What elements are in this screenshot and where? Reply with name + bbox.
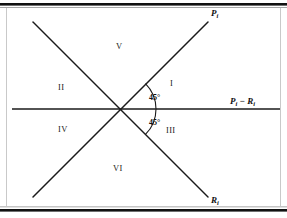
- region-label-VI: VI: [113, 164, 123, 173]
- angle-label-lower: 45°: [149, 119, 160, 127]
- diagram-canvas: [0, 0, 287, 218]
- axis-symbol-p2: P: [230, 96, 236, 106]
- axis-symbol-p: P: [211, 8, 217, 18]
- frame-bottom-rule: [0, 209, 287, 212]
- region-label-III: III: [166, 126, 175, 135]
- frame-bottom-hairline: [0, 207, 287, 208]
- region-label-II: II: [58, 83, 64, 92]
- axis-operator-minus: −: [237, 96, 247, 106]
- axis-subscript-r: i: [217, 199, 219, 206]
- axis-subscript-p: i: [217, 12, 219, 19]
- figure-container: I II III IV V VI 45° 45° Pi Ri Pi − Ri: [0, 0, 287, 218]
- axis-label-p-minus-r: Pi − Ri: [230, 97, 255, 106]
- axis-label-p-i: Pi: [211, 9, 218, 18]
- region-label-V: V: [116, 42, 122, 51]
- region-label-I: I: [170, 79, 173, 88]
- region-label-IV: IV: [58, 125, 68, 134]
- frame-top-hairline: [0, 7, 287, 8]
- axis-subscript-r2: i: [253, 100, 255, 107]
- angle-label-upper: 45°: [149, 94, 160, 102]
- axis-label-r-i: Ri: [211, 196, 219, 205]
- frame-top-rule: [0, 3, 287, 6]
